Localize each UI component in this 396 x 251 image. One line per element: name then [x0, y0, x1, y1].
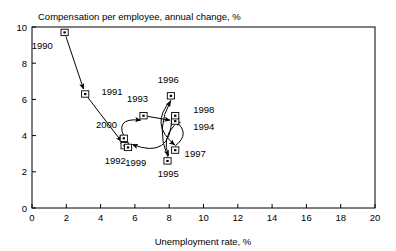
y-tick-label: 10 [16, 22, 27, 33]
point-label-2000: 2000 [96, 119, 117, 130]
y-tick-label: 2 [22, 166, 27, 177]
marker-center-dot [174, 120, 176, 122]
y-tick-label: 8 [22, 58, 27, 69]
data-point-1994: 1994 [172, 118, 215, 132]
data-point-1996: 1996 [158, 74, 179, 100]
x-axis-title: Unemployment rate, % [155, 236, 252, 247]
marker-center-dot [84, 93, 86, 95]
y-tick-label: 4 [22, 130, 27, 141]
point-label-1998: 1998 [193, 104, 214, 115]
chart-svg: Compensation per employee, annual change… [0, 0, 396, 251]
x-tick-label: 0 [29, 212, 34, 223]
point-label-1992: 1992 [105, 155, 126, 166]
x-tick-label: 4 [98, 212, 103, 223]
marker-center-dot [170, 95, 172, 97]
y-tick-label: 0 [22, 203, 27, 214]
marker-center-dot [174, 115, 176, 117]
connector-1990-to-1991 [66, 36, 84, 89]
marker-center-dot [174, 149, 176, 151]
data-point-1995: 1995 [158, 158, 179, 180]
point-label-1996: 1996 [158, 74, 179, 85]
point-label-1995: 1995 [158, 168, 179, 179]
chart-title: Compensation per employee, annual change… [38, 11, 241, 22]
data-point-1991: 1991 [82, 86, 123, 97]
marker-center-dot [142, 115, 144, 117]
x-tick-label: 10 [198, 212, 209, 223]
x-tick-label: 6 [132, 212, 137, 223]
data-point-2000: 2000 [96, 119, 127, 142]
data-point-1998: 1998 [172, 104, 215, 119]
x-axis-ticks: 02468101214161820 [29, 204, 380, 223]
x-tick-label: 16 [301, 212, 312, 223]
data-point-1990: 1990 [32, 29, 68, 51]
x-tick-label: 20 [370, 212, 381, 223]
marker-center-dot [123, 137, 125, 139]
data-point-1997: 1997 [172, 147, 206, 159]
point-label-1990: 1990 [32, 40, 53, 51]
data-point-1993: 1993 [127, 93, 148, 119]
point-label-1991: 1991 [102, 86, 123, 97]
scatter-chart: Compensation per employee, annual change… [0, 0, 396, 251]
plot-frame [32, 27, 375, 208]
data-points: 1990199119921993199419951996199719981999… [32, 29, 215, 179]
point-label-1997: 1997 [185, 148, 206, 159]
point-label-1993: 1993 [127, 93, 148, 104]
point-label-1999: 1999 [125, 157, 146, 168]
marker-center-dot [127, 146, 129, 148]
x-tick-label: 18 [335, 212, 346, 223]
point-label-1994: 1994 [193, 121, 214, 132]
connector-1993-to-1994 [148, 116, 171, 120]
x-tick-label: 2 [64, 212, 69, 223]
x-tick-label: 14 [267, 212, 278, 223]
x-tick-label: 12 [233, 212, 244, 223]
y-tick-label: 6 [22, 94, 27, 105]
x-tick-label: 8 [167, 212, 172, 223]
marker-center-dot [166, 160, 168, 162]
marker-center-dot [63, 31, 65, 33]
